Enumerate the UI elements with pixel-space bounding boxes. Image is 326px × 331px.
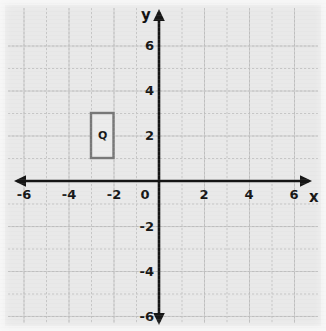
x-axis-label: x: [309, 190, 319, 205]
coordinate-plane-figure: -6 -4 -2 0 2 4 6 6 4 2 -2 -4 -6 y x Q: [0, 0, 326, 331]
x-tick-label--6: -6: [13, 188, 35, 201]
y-axis-label: y: [141, 8, 151, 23]
y-tick-label--6: -6: [132, 310, 154, 323]
shape-label-q: Q: [98, 130, 107, 141]
x-tick-label--2: -2: [103, 188, 125, 201]
x-tick-label-6: 6: [286, 188, 302, 201]
plotted-shapes: [0, 0, 326, 331]
y-tick-label--2: -2: [132, 220, 154, 233]
x-tick-label--4: -4: [58, 188, 80, 201]
y-tick-label--4: -4: [132, 265, 154, 278]
x-tick-label-4: 4: [241, 188, 257, 201]
x-tick-label-2: 2: [196, 188, 212, 201]
y-tick-label-6: 6: [138, 39, 154, 52]
y-tick-label-2: 2: [138, 129, 154, 142]
x-tick-label-0: 0: [138, 188, 152, 201]
y-tick-label-4: 4: [138, 84, 154, 97]
